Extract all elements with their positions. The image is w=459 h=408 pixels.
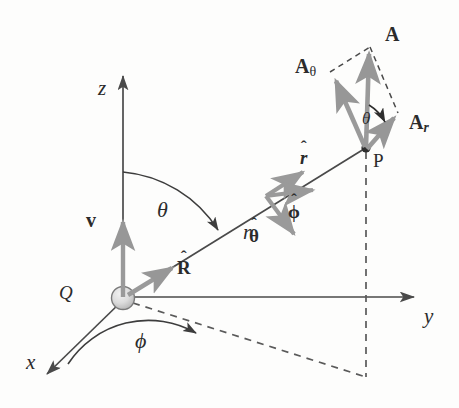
axis-label-x: x xyxy=(26,352,35,373)
unit-vector-label-r-base: r xyxy=(300,147,307,168)
unit-vector-R-hat-arrow xyxy=(128,268,172,295)
vector-label-A-r-base: A xyxy=(409,111,423,133)
point-label-P: P xyxy=(373,151,384,170)
axis-x xyxy=(47,300,123,374)
vector-A-arrow xyxy=(366,54,369,147)
angle-label-theta: θ xyxy=(157,199,168,221)
point-label-Q: Q xyxy=(59,283,73,302)
projection-dashed-lines xyxy=(133,152,366,377)
axis-label-z: z xyxy=(98,78,106,99)
vector-label-A: A xyxy=(385,24,399,44)
vector-label-v: v xyxy=(86,210,96,230)
unit-vector-label-theta-hat: ̂ θ xyxy=(249,226,259,245)
unit-vector-label-R-base: R xyxy=(177,257,191,278)
phi-angle-arc xyxy=(68,320,196,364)
unit-vector-label-phi-hat: ̂ ϕ xyxy=(288,202,300,221)
theta-angle-arc xyxy=(123,172,218,230)
vector-label-A-r-subscript: r xyxy=(423,120,428,135)
theta-at-P-arc xyxy=(369,105,385,122)
vector-label-A-theta: Aθ xyxy=(295,56,316,79)
decomposition-parallelogram xyxy=(330,47,398,113)
axis-label-y: y xyxy=(424,306,433,327)
vector-A-r-arrow xyxy=(367,118,394,149)
angle-label-phi: ϕ xyxy=(135,330,146,352)
unit-vector-label-theta-base: θ xyxy=(249,225,259,246)
spherical-coordinates-figure: z y x Q P θ ϕ θ r A Aθ Ar v ̂ R ̂ r ̂ ϕ … xyxy=(0,0,459,408)
unit-vector-label-r-hat: ̂ r xyxy=(300,148,307,167)
vector-label-A-theta-subscript: θ xyxy=(309,64,316,79)
angle-label-theta-at-P: θ xyxy=(362,110,370,127)
vector-A-theta-arrow xyxy=(336,81,365,147)
vector-label-A-r: Ar xyxy=(409,112,429,135)
unit-vector-label-phi-base: ϕ xyxy=(288,201,300,222)
vector-label-A-theta-base: A xyxy=(295,55,309,77)
diagram-canvas xyxy=(0,0,459,408)
unit-vector-label-R-hat: ̂ R xyxy=(177,258,191,277)
